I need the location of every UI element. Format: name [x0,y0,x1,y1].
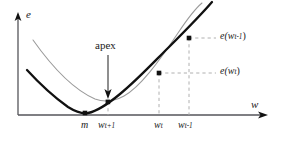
curve-approximating-quadratic [33,3,202,101]
x-tick-wt-minus-1-main: w [178,119,185,130]
y-value-label-e-wt: e(wt) [220,66,240,76]
y-value-e-wt-minus-1-main: e(w [220,30,234,41]
curve-true-error [27,2,212,113]
x-tick-wt-main: w [154,119,161,130]
y-value-e-wt-minus-1-close: ) [242,30,245,41]
x-tick-m-main: m [81,119,88,130]
dashed-guides-group [108,38,216,115]
point-wt-marker [157,71,162,76]
y-value-e-wt-main: e(w [220,65,234,76]
y-axis-label: e [26,9,31,20]
x-tick-wt-plus-1-main: w [98,119,105,130]
x-tick-label-m: m [81,120,88,130]
point-wt-minus-1-marker [187,36,192,41]
x-tick-label-wt-minus-1: wt-1 [178,120,193,130]
error-curve-diagram: e w apex m wt+1 wt wt-1 e(wt-1) e(wt) [0,0,281,141]
x-tick-label-wt-plus-1: wt+1 [98,120,115,130]
x-tick-label-wt: wt [154,120,163,130]
apex-annotation-label: apex [95,40,116,51]
apex-arrow-group [104,55,111,99]
apex-point-marker [106,100,111,105]
x-tick-wt-sub: t [161,122,163,130]
x-axis-label: w [251,99,258,110]
y-value-label-e-wt-minus-1: e(wt-1) [220,31,246,41]
x-tick-wt-plus-1-sub: t+1 [105,122,115,130]
minimum-m-marker [83,111,88,116]
y-value-e-wt-close: ) [236,65,239,76]
x-tick-wt-minus-1-sub: t-1 [185,122,193,130]
